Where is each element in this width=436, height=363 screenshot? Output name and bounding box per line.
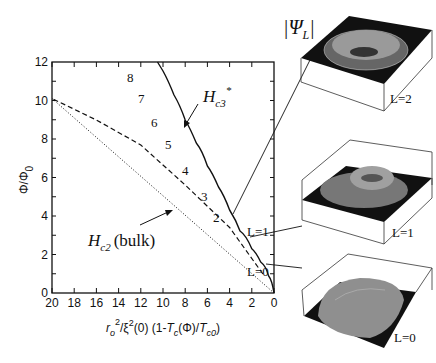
- svg-text:L=0: L=0: [394, 330, 416, 345]
- svg-text:14: 14: [112, 296, 126, 310]
- svg-text:2: 2: [41, 248, 48, 262]
- connector-l0: [266, 264, 302, 268]
- y-axis-label: Φ/Φ0: [17, 166, 35, 194]
- svg-text:2: 2: [248, 296, 255, 310]
- hc2-arrow: [140, 212, 168, 225]
- svg-text:2: 2: [213, 210, 220, 225]
- connector-l2: [233, 60, 310, 214]
- svg-text:L=0: L=0: [247, 264, 269, 279]
- hc3-star-label: Hc3*: [202, 84, 232, 109]
- hc3-arrow: [186, 104, 198, 124]
- svg-text:4: 4: [226, 296, 233, 310]
- svg-text:12: 12: [134, 296, 148, 310]
- inset-l2: L=2: [301, 16, 432, 111]
- svg-text:L=2: L=2: [390, 91, 412, 106]
- svg-text:6: 6: [41, 171, 48, 185]
- svg-text:5: 5: [165, 137, 172, 152]
- psi-title: |ΨL|: [283, 16, 315, 42]
- svg-text:10: 10: [35, 94, 49, 108]
- svg-text:8: 8: [182, 296, 189, 310]
- svg-text:0: 0: [271, 296, 278, 310]
- svg-text:L=1: L=1: [392, 225, 414, 240]
- y-axis-ticks: [52, 81, 274, 274]
- svg-text:16: 16: [90, 296, 104, 310]
- svg-text:4: 4: [182, 163, 189, 178]
- svg-text:6: 6: [151, 115, 158, 130]
- svg-text:0: 0: [41, 286, 48, 300]
- svg-text:8: 8: [41, 132, 48, 146]
- y-tick-labels: 0 2 4 6 8 10 12: [35, 55, 49, 300]
- chart: 20 18 16 14 12 10 8 6 4 2 0 0 2 4 6 8 10…: [0, 0, 436, 363]
- svg-text:Φ/Φ0: Φ/Φ0: [17, 166, 35, 194]
- arrow-head-icon: [165, 210, 173, 216]
- plot-frame: [52, 62, 274, 293]
- svg-text:18: 18: [68, 296, 82, 310]
- x-tick-labels: 20 18 16 14 12 10 8 6 4 2 0: [45, 296, 277, 310]
- x-axis-label: ro2/ξ2(0) (1-Tc(Φ)/Tc0): [106, 317, 220, 338]
- inset-l0: L=0: [302, 254, 432, 348]
- svg-text:3: 3: [201, 189, 208, 204]
- hc2-bulk-line: [52, 99, 274, 294]
- svg-text:7: 7: [138, 91, 145, 106]
- inset-l1: L=1: [302, 140, 432, 244]
- x-axis-ticks: [52, 62, 274, 293]
- svg-text:4: 4: [41, 209, 48, 223]
- svg-text:8: 8: [127, 70, 134, 85]
- svg-text:10: 10: [156, 296, 170, 310]
- svg-text:6: 6: [204, 296, 211, 310]
- hc2-bulk-label: Hc2(bulk): [87, 231, 155, 253]
- svg-text:12: 12: [35, 55, 49, 69]
